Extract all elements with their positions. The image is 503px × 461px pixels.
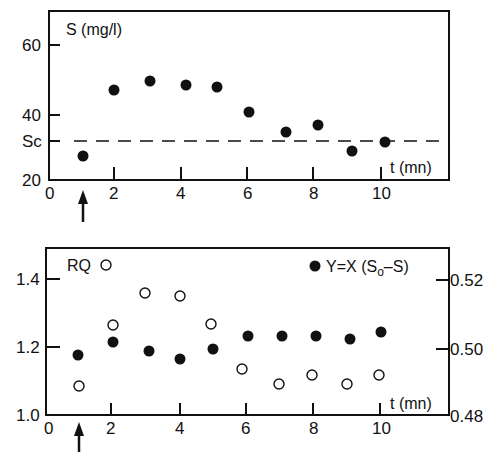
rq-series (74, 288, 384, 391)
bottom-xtick-6: 6 (241, 419, 250, 438)
top-series-s (78, 76, 391, 162)
chart-canvas: 60 40 Sc 20 0 2 4 6 8 10 S (mg/l) t (mn) (0, 0, 503, 461)
top-ytick-40: 40 (22, 106, 41, 125)
bottom-xtick-2: 2 (106, 419, 115, 438)
bottom-xtick-10: 10 (372, 419, 391, 438)
top-ytick-20: 20 (22, 171, 41, 190)
bottom-xaxis-label: t (mn) (390, 395, 432, 412)
bottom-ytick-1.2: 1.2 (16, 338, 40, 357)
top-xtick-8: 8 (309, 184, 318, 203)
bottom-xtick-8: 8 (309, 419, 318, 438)
top-xtick-10: 10 (372, 184, 391, 203)
bottom-ytick-1.0: 1.0 (16, 406, 40, 425)
rq-legend-label: RQ (67, 257, 91, 274)
top-ytick-60: 60 (22, 36, 41, 55)
bottom-right-ytick-0.50: 0.50 (450, 340, 483, 359)
top-xtick-6: 6 (243, 184, 252, 203)
top-xtick-0: 0 (45, 184, 54, 203)
bottom-ytick-1.4: 1.4 (16, 270, 40, 289)
arrow-up-icon (78, 190, 88, 222)
top-chart: 60 40 Sc 20 0 2 4 6 8 10 S (mg/l) t (mn) (22, 11, 449, 222)
bottom-chart: 1.4 1.2 1.0 0.52 0.50 0.48 0 2 4 6 8 10 … (16, 248, 483, 452)
top-xtick-2: 2 (109, 184, 118, 203)
y-legend-marker (310, 261, 321, 272)
bottom-xtick-0: 0 (44, 419, 53, 438)
rq-legend-marker (101, 260, 111, 270)
bottom-right-ytick-0.52: 0.52 (450, 271, 483, 290)
bottom-xtick-4: 4 (175, 419, 184, 438)
top-xtick-4: 4 (176, 184, 185, 203)
y-legend-label: Y=X (So–S) (326, 258, 409, 279)
y-series (73, 327, 387, 365)
bottom-right-ytick-0.48: 0.48 (450, 407, 483, 426)
top-chart-title: S (mg/l) (66, 21, 122, 38)
top-xaxis-label: t (mn) (390, 159, 432, 176)
arrow-up-icon (74, 422, 84, 452)
sc-label: Sc (22, 132, 42, 151)
